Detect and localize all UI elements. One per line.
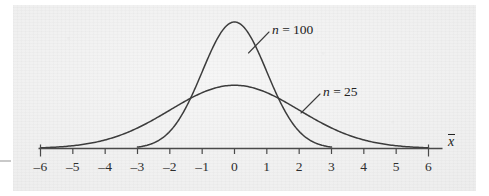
x-axis-tick-label: 4	[351, 159, 377, 175]
x-axis-tick-label: 3	[319, 159, 345, 175]
x-axis-tick-label: –1	[189, 159, 215, 175]
x-axis-variable-label: x	[448, 134, 455, 150]
x-axis-tick-label: –6	[28, 159, 54, 175]
figure-container: –6–5–4–3–2–10123456 n = 100 n = 25 x	[0, 0, 489, 196]
curve-label-n-100: n = 100	[272, 22, 313, 38]
x-bar-glyph: x	[448, 134, 455, 150]
x-axis-tick-label: 0	[222, 159, 248, 175]
leader-line	[249, 32, 270, 53]
x-axis-tick-label: –4	[92, 159, 118, 175]
x-axis-tick-label: 2	[286, 159, 312, 175]
x-axis-tick-label: 1	[254, 159, 280, 175]
curve-label-n-25: n = 25	[323, 84, 358, 100]
x-axis-tick-label: –3	[125, 159, 151, 175]
x-axis-tick-label: 5	[383, 159, 409, 175]
curves-group	[41, 22, 429, 148]
curve-label-n-25-value: = 25	[333, 84, 358, 99]
x-axis-tick-label: 6	[416, 159, 442, 175]
x-axis-group	[39, 145, 443, 157]
curve-label-n-25-variable: n	[323, 84, 330, 99]
curve-n-25	[41, 85, 429, 148]
curve-label-n-100-variable: n	[272, 22, 279, 37]
curve-label-n-100-value: = 100	[282, 22, 313, 37]
leader-line	[301, 94, 320, 113]
x-axis-tick-label: –2	[157, 159, 183, 175]
x-axis-tick-label: –5	[60, 159, 86, 175]
